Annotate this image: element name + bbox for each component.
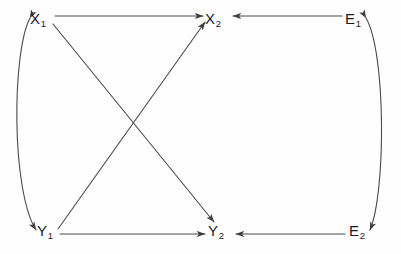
- node-label-e2: E2: [349, 223, 365, 238]
- edge-layer: [0, 0, 401, 254]
- path-diagram-canvas: X1 X2 E1 Y1 Y2 E2: [0, 0, 401, 254]
- node-label-e1: E1: [345, 11, 361, 26]
- node-label-y2: Y2: [208, 223, 224, 238]
- edge-x1-y1-covariance: [17, 18, 36, 230]
- edge-y1-to-x2: [58, 22, 205, 229]
- node-label-x1: X1: [30, 11, 46, 26]
- edge-e1-e2-covariance: [366, 18, 382, 230]
- node-label-y1: Y1: [37, 223, 53, 238]
- node-label-x2: X2: [205, 11, 221, 26]
